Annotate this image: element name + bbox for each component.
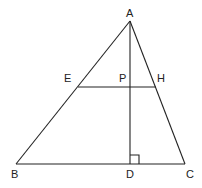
segment-ab bbox=[16, 21, 130, 164]
label-b: B bbox=[11, 168, 18, 180]
right-angle-marker bbox=[130, 155, 139, 164]
label-h: H bbox=[157, 72, 165, 84]
label-c: C bbox=[186, 168, 194, 180]
label-d: D bbox=[126, 168, 134, 180]
label-e: E bbox=[64, 72, 71, 84]
label-p: P bbox=[119, 72, 126, 84]
triangle-diagram: A B C D E P H bbox=[0, 0, 202, 188]
segment-ac bbox=[130, 21, 185, 164]
label-a: A bbox=[126, 7, 134, 19]
